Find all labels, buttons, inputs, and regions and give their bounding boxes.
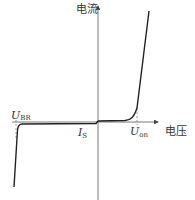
iv-curve-diagram: 电流 电压 UBR IS Uon [0, 0, 195, 200]
x-axis-label: 电压 [165, 125, 187, 138]
y-axis-label: 电流 [76, 2, 98, 16]
turn-on-label: Uon [130, 125, 148, 139]
forward-curve [98, 11, 149, 121]
saturation-label: IS [77, 126, 87, 140]
breakdown-label: UBR [11, 109, 31, 122]
reverse-curve [14, 121, 98, 187]
